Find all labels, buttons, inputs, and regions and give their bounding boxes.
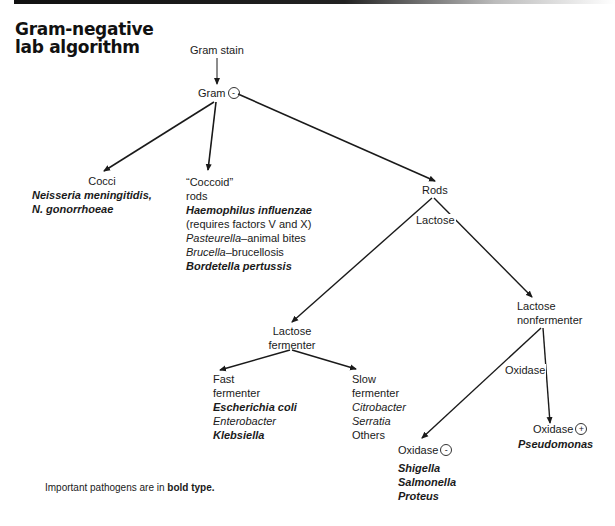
oxidase-negative-label: Oxidase [398,444,438,456]
organism-citrobacter: Citrobacter [352,400,406,414]
oxidase-negative-label-row: Oxidase- [398,443,456,457]
fast-fermenter-line1: Fast [213,372,297,386]
edge-gramneg-rods [238,94,435,181]
organism-brucella: Brucella–brucellosis [186,245,312,259]
node-rods: Rods [422,183,448,197]
pasteurella-note: –animal bites [241,232,306,244]
organism-klebsiella: Klebsiella [213,428,297,442]
footnote-text: Important pathogens are in [45,482,167,493]
organism-n-gonorrhoeae: N. gonorrhoeae [32,202,172,216]
node-coccoid-rods: “Coccoid” rods Haemophilus influenzae (r… [186,175,312,273]
organism-enterobacter: Enterobacter [213,414,297,428]
node-fast-fermenter: Fast fermenter Escherichia coli Enteroba… [213,372,297,442]
edge-gramneg-cocci [104,102,214,171]
lactose-nonfermenter-line1: Lactose [517,299,582,313]
node-lactose-nonfermenter: Lactose nonfermenter [517,299,582,327]
lactose-fermenter-line1: Lactose [262,324,322,338]
edge-rods-lactnonfermenter [434,198,532,297]
organism-salmonella: Salmonella [398,475,456,489]
plus-circle-icon: + [575,423,587,435]
edge-gramneg-coccoid [208,102,216,170]
minus-circle-icon: - [440,444,452,456]
gram-stain-label: Gram stain [190,44,244,56]
oxidase-positive-label: Oxidase [533,423,573,435]
node-slow-fermenter: Slow fermenter Citrobacter Serratia Othe… [352,372,406,442]
fast-fermenter-line2: fermenter [213,386,297,400]
organism-pasteurella: Pasteurella–animal bites [186,231,312,245]
gram-label: Gram [198,87,226,99]
organism-haemophilus-influenzae: Haemophilus influenzae [186,203,312,217]
node-gram-negative: Gram- [198,86,240,100]
organism-others: Others [352,428,406,442]
organism-neisseria-meningitidis: Neisseria meningitidis, [32,188,172,202]
organism-serratia: Serratia [352,414,406,428]
node-oxidase-negative: Oxidase- Shigella Salmonella Proteus [398,443,456,503]
edge-label-lactose: Lactose [415,214,456,227]
brucella-note: –brucellosis [226,246,284,258]
edge-lactfermenter-fast [220,350,290,370]
lactose-fermenter-line2: fermenter [262,338,322,352]
node-lactose-fermenter: Lactose fermenter [262,324,322,352]
organism-pseudomonas: Pseudomonas [518,437,593,451]
oxidase-positive-label-row: Oxidase+ [518,422,593,436]
slow-fermenter-line2: fermenter [352,386,406,400]
coccoid-label: “Coccoid” [186,175,312,189]
organism-shigella: Shigella [398,461,456,475]
node-gram-stain: Gram stain [190,43,244,57]
organism-bordetella-pertussis: Bordetella pertussis [186,259,312,273]
rods-label: Rods [422,184,448,196]
lactose-nonfermenter-line2: nonfermenter [517,313,582,327]
edge-lactfermenter-slow [292,350,356,369]
minus-circle-icon: - [228,87,240,99]
slow-fermenter-line1: Slow [352,372,406,386]
edge-rods-lactfermenter [292,198,432,322]
footnote: Important pathogens are in bold type. [45,482,215,493]
haemophilus-note: (requires factors V and X) [186,217,312,231]
node-cocci: Cocci Neisseria meningitidis, N. gonorrh… [32,174,172,216]
cocci-label: Cocci [32,174,172,188]
pasteurella-name: Pasteurella [186,232,241,244]
brucella-name: Brucella [186,246,226,258]
organism-proteus: Proteus [398,489,456,503]
edge-label-oxidase: Oxidase [504,364,546,377]
node-oxidase-positive: Oxidase+ Pseudomonas [518,422,593,451]
rods-sublabel: rods [186,189,312,203]
organism-escherichia-coli: Escherichia coli [213,400,297,414]
footnote-bold-text: bold type. [167,482,214,493]
